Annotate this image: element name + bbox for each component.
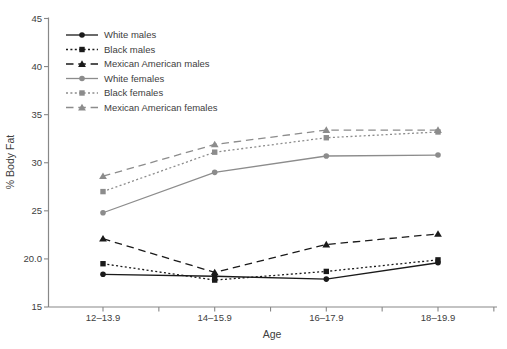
data-point <box>435 257 440 262</box>
data-point <box>212 149 217 154</box>
data-point <box>212 170 218 176</box>
chart-canvas: 454035302520.01512–13.914–15.916–17.918–… <box>0 0 507 349</box>
y-tick-label: 15 <box>31 301 42 312</box>
legend-square-marker <box>79 90 84 95</box>
y-tick-label: 35 <box>31 109 42 120</box>
data-point <box>435 152 441 158</box>
legend-label: Mexican American females <box>104 102 218 113</box>
data-point <box>100 261 105 266</box>
legend-circle-marker <box>79 76 85 82</box>
x-tick-label: 18–19.9 <box>421 312 455 323</box>
y-tick-label: 20.0 <box>24 253 43 264</box>
x-axis-title: Age <box>263 328 282 340</box>
y-tick-label: 40 <box>31 61 42 72</box>
data-point <box>322 126 330 133</box>
legend-label: White females <box>104 73 164 84</box>
x-tick-label: 16–17.9 <box>309 312 343 323</box>
legend-circle-marker <box>79 32 85 38</box>
legend-square-marker <box>79 47 84 52</box>
data-point <box>99 235 107 242</box>
series-line <box>103 234 438 272</box>
y-tick-label: 25 <box>31 205 42 216</box>
legend-label: Black males <box>104 44 155 55</box>
y-tick-label: 30 <box>31 157 42 168</box>
series-line <box>103 130 438 176</box>
data-point <box>324 269 329 274</box>
data-point <box>324 153 330 159</box>
body-fat-line-chart: 454035302520.01512–13.914–15.916–17.918–… <box>0 0 507 349</box>
data-point <box>324 135 329 140</box>
y-tick-label: 45 <box>31 13 42 24</box>
data-point <box>434 230 442 237</box>
legend-label: White males <box>104 29 157 40</box>
x-tick-label: 12–13.9 <box>86 312 120 323</box>
data-point <box>100 210 106 216</box>
series-line <box>103 155 438 213</box>
data-point <box>100 272 106 278</box>
data-point <box>100 189 105 194</box>
data-point <box>212 277 217 282</box>
y-axis-title: % Body Fat <box>4 135 16 189</box>
legend-label: Black females <box>104 87 163 98</box>
legend-label: Mexican American males <box>104 58 210 69</box>
data-point <box>211 141 219 148</box>
data-point <box>324 276 330 282</box>
x-tick-label: 14–15.9 <box>198 312 232 323</box>
